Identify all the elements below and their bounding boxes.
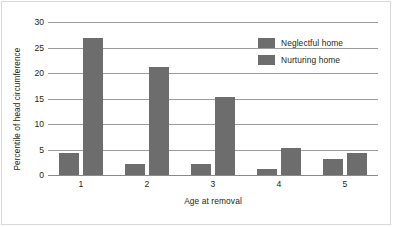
legend-label: Neglectful home xyxy=(281,38,343,48)
bar xyxy=(347,153,367,175)
bar xyxy=(281,148,301,175)
x-axis-tick-labels: 12345 xyxy=(48,178,378,192)
chart-figure: Percentile of head circumference 0510152… xyxy=(0,0,393,227)
y-tick-label: 20 xyxy=(18,68,44,78)
bar xyxy=(149,67,169,175)
bar xyxy=(59,153,79,175)
y-tick-label: 10 xyxy=(18,119,44,129)
x-tick-label: 3 xyxy=(198,178,228,190)
x-tick-label: 1 xyxy=(66,178,96,190)
x-tick-label: 5 xyxy=(330,178,360,190)
bar xyxy=(191,164,211,175)
y-tick-label: 15 xyxy=(18,94,44,104)
legend-swatch-icon xyxy=(258,55,275,65)
legend-item-neglectful-home[interactable]: Neglectful home xyxy=(258,34,380,51)
legend-swatch-icon xyxy=(258,38,275,48)
y-tick-label: 0 xyxy=(18,170,44,180)
bar xyxy=(323,159,343,175)
x-tick-label: 2 xyxy=(132,178,162,190)
bar xyxy=(125,164,145,175)
bar xyxy=(215,97,235,175)
bar xyxy=(257,169,277,175)
x-axis-title: Age at removal xyxy=(48,196,378,206)
chart-legend: Neglectful home Nurturing home xyxy=(258,34,380,68)
legend-label: Nurturing home xyxy=(281,55,340,65)
y-axis-tick-labels: 051015202530 xyxy=(14,22,44,175)
y-tick-label: 25 xyxy=(18,43,44,53)
bar xyxy=(83,38,103,175)
legend-item-nurturing-home[interactable]: Nurturing home xyxy=(258,51,380,68)
gridline xyxy=(48,175,378,176)
y-tick-label: 30 xyxy=(18,17,44,27)
y-tick-label: 5 xyxy=(18,145,44,155)
x-tick-label: 4 xyxy=(264,178,294,190)
